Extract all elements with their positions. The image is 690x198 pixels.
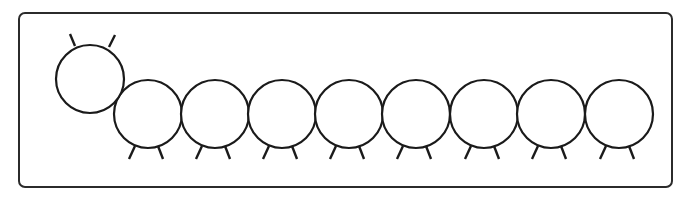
leg-left [397, 146, 403, 159]
body-circle [248, 80, 316, 148]
body-segment [315, 80, 383, 159]
body-circle [517, 80, 585, 148]
leg-right [359, 146, 364, 159]
leg-left [129, 146, 135, 159]
caterpillar-body [114, 80, 653, 159]
body-segment [181, 80, 249, 159]
leg-left [263, 146, 269, 159]
leg-right [225, 146, 230, 159]
body-segment [248, 80, 316, 159]
leg-right [426, 146, 431, 159]
body-circle [382, 80, 450, 148]
body-segment [585, 80, 653, 159]
body-segment [517, 80, 585, 159]
body-circle [181, 80, 249, 148]
leg-left [196, 146, 202, 159]
body-segment [382, 80, 450, 159]
body-circle [450, 80, 518, 148]
body-circle [315, 80, 383, 148]
body-circle [114, 80, 182, 148]
head-circle [56, 45, 124, 113]
leg-right [158, 146, 163, 159]
leg-left [532, 146, 538, 159]
caterpillar-diagram [0, 0, 690, 198]
leg-left [465, 146, 471, 159]
leg-left [600, 146, 606, 159]
leg-left [330, 146, 336, 159]
antenna-right [109, 35, 115, 47]
caterpillar-head [56, 34, 124, 113]
body-segment [450, 80, 518, 159]
antenna-left [70, 34, 75, 46]
body-circle [585, 80, 653, 148]
body-segment [114, 80, 182, 159]
leg-right [629, 146, 634, 159]
leg-right [561, 146, 566, 159]
leg-right [292, 146, 297, 159]
leg-right [494, 146, 499, 159]
